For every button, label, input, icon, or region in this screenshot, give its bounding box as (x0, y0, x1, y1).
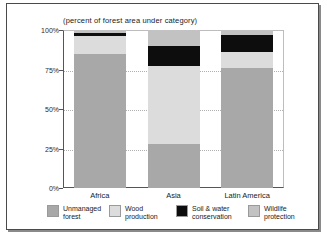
legend-item-unmanaged-forest[interactable]: Unmanaged forest (47, 205, 101, 221)
y-tick-label-75: 75% (45, 66, 59, 73)
legend-swatch (176, 205, 188, 217)
bar-segment-wood-production[interactable] (221, 52, 273, 68)
y-tick-mark-100 (59, 30, 63, 31)
bar-stack (148, 30, 200, 188)
x-axis-label-latin-america: Latin America (224, 191, 269, 200)
legend-label: Unmanaged forest (63, 205, 101, 221)
figure-border-shadow-right (319, 5, 321, 232)
bar-segment-unmanaged-forest[interactable] (74, 54, 126, 188)
legend-item-soil-water-conservation[interactable]: Soil & water conservation (176, 205, 232, 221)
bar-segment-soil-water-conservation[interactable] (74, 33, 126, 36)
bar-stack (74, 30, 126, 188)
bars-layer (63, 30, 284, 188)
figure-border-shadow-bottom (8, 230, 321, 232)
bar-segment-wildlife-protection[interactable] (148, 30, 200, 46)
bar-group-latin-america[interactable] (221, 30, 273, 188)
chart-legend: Unmanaged forestWood productionSoil & wa… (47, 205, 315, 225)
y-tick-mark-75 (59, 70, 63, 71)
y-tick-label-25: 25% (45, 145, 59, 152)
legend-label: Wildlife protection (264, 205, 295, 221)
y-tick-mark-50 (59, 109, 63, 110)
bar-stack (221, 30, 273, 188)
bar-group-africa[interactable] (74, 30, 126, 188)
x-axis-label-africa: Africa (90, 191, 109, 200)
chart-title: (percent of forest area under category) (63, 16, 197, 25)
legend-label: Wood production (125, 205, 158, 221)
legend-swatch (248, 205, 260, 217)
bar-segment-wood-production[interactable] (148, 66, 200, 143)
chart-figure: (percent of forest area under category) … (0, 0, 327, 239)
y-tick-label-0: 0% (49, 185, 59, 192)
bar-segment-wildlife-protection[interactable] (221, 30, 273, 35)
legend-swatch (109, 205, 121, 217)
bar-segment-wildlife-protection[interactable] (74, 30, 126, 33)
bar-segment-unmanaged-forest[interactable] (148, 144, 200, 188)
bar-segment-soil-water-conservation[interactable] (221, 35, 273, 52)
bar-segment-wood-production[interactable] (74, 36, 126, 53)
y-axis-tick-labels: 100%75%50%25%0% (28, 30, 59, 188)
legend-item-wood-production[interactable]: Wood production (109, 205, 158, 221)
bar-group-asia[interactable] (148, 30, 200, 188)
x-axis-label-asia: Asia (166, 191, 181, 200)
legend-label: Soil & water conservation (192, 205, 232, 221)
bar-segment-soil-water-conservation[interactable] (148, 46, 200, 67)
y-tick-mark-25 (59, 149, 63, 150)
legend-swatch (47, 205, 59, 217)
legend-item-wildlife-protection[interactable]: Wildlife protection (248, 205, 295, 221)
y-tick-label-100: 100% (41, 27, 59, 34)
bar-segment-unmanaged-forest[interactable] (221, 68, 273, 188)
y-tick-mark-0 (59, 188, 63, 189)
y-tick-label-50: 50% (45, 106, 59, 113)
